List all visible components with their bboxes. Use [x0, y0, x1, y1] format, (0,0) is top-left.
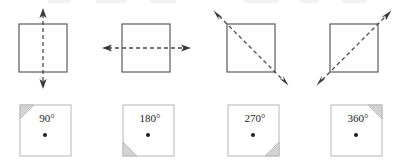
- arrow-head-downright-icon: [280, 76, 289, 86]
- corner-wedge-bottom-left: [123, 142, 137, 156]
- symmetry-item-anti-diagonal-axis: [317, 11, 392, 86]
- rotation-angle-label: 90°: [39, 112, 54, 124]
- symmetry-figure: 90° 180° 270° 360°: [0, 0, 394, 164]
- symmetry-item-horizontal-axis: [102, 24, 191, 72]
- center-point-dot: [354, 133, 358, 137]
- symmetry-axis-line: [219, 16, 283, 80]
- arrow-head-right-icon: [181, 44, 191, 51]
- corner-wedge-top-left: [20, 105, 34, 119]
- rotation-angle-label: 360°: [348, 112, 369, 124]
- rotation-item-360: 360°: [331, 105, 382, 156]
- arrow-head-upleft-icon: [214, 11, 223, 21]
- rotation-angle-label: 270°: [245, 112, 266, 124]
- symmetry-item-main-diagonal-axis: [214, 11, 289, 86]
- center-point-dot: [43, 133, 47, 137]
- cut-off-text-strip: [48, 0, 366, 3]
- center-point-dot: [146, 133, 150, 137]
- rotation-item-270: 270°: [228, 105, 279, 156]
- center-point-dot: [251, 133, 255, 137]
- rotation-item-90: 90°: [20, 105, 71, 156]
- rotation-item-180: 180°: [123, 105, 174, 156]
- figure-canvas: 90° 180° 270° 360°: [0, 0, 394, 164]
- arrow-head-downleft-icon: [317, 76, 326, 86]
- rotation-angle-label: 180°: [140, 112, 161, 124]
- corner-wedge-bottom-right: [265, 142, 279, 156]
- symmetry-item-vertical-axis: [19, 8, 67, 89]
- corner-wedge-top-right: [368, 105, 382, 119]
- symmetry-axis-line: [322, 16, 386, 80]
